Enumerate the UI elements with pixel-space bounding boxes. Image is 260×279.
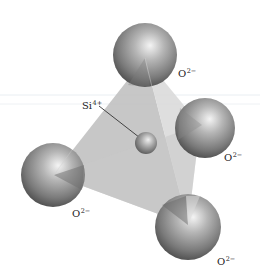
oxygen-ion-left: [21, 143, 85, 207]
si-ion-sphere: [135, 132, 157, 154]
oxygen-ion-right: [175, 98, 235, 158]
si-symbol: Si: [82, 100, 92, 111]
oxygen-ion-top: [113, 23, 177, 87]
oxygen-label-bottom: O2−: [217, 256, 235, 267]
oxygen-label-right: O2−: [224, 152, 242, 163]
silicate-tetrahedron-diagram: [0, 0, 260, 279]
oxygen-label-left: O2−: [72, 208, 90, 219]
oxygen-charge: 2−: [187, 67, 197, 75]
oxygen-symbol: O: [72, 208, 80, 219]
oxygen-symbol: O: [224, 152, 232, 163]
si-charge: 4+: [93, 99, 103, 107]
oxygen-label-top: O2−: [178, 68, 196, 79]
oxygen-charge: 2−: [233, 151, 243, 159]
oxygen-charge: 2−: [81, 207, 91, 215]
oxygen-charge: 2−: [226, 255, 236, 263]
oxygen-ion-bottom: [155, 194, 221, 260]
si-ion-label: Si4+: [82, 100, 102, 111]
oxygen-symbol: O: [217, 256, 225, 267]
oxygen-symbol: O: [178, 68, 186, 79]
